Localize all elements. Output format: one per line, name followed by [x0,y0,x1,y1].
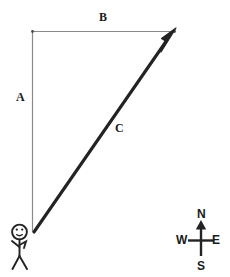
compass-label-west: W [176,234,187,246]
compass-label-east: E [212,234,220,246]
vector-diagram: A B C N S W E [0,0,230,277]
label-b: B [99,11,107,23]
compass-rose [0,0,230,277]
compass-north-arrowhead [196,220,206,230]
compass-label-south: S [197,260,205,272]
label-a: A [16,91,25,103]
label-c: C [115,122,124,134]
compass-label-north: N [197,208,206,220]
